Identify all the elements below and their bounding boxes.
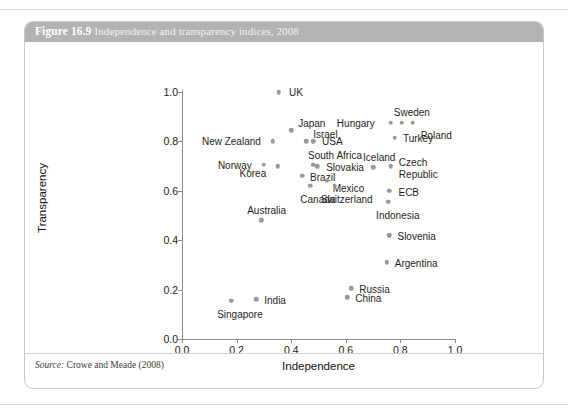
y-tick-mark [178, 141, 182, 142]
source-citation: Crowe and Meade (2008) [64, 360, 164, 370]
data-point-label: India [264, 296, 286, 306]
x-tick-label: 0.6 [338, 344, 353, 356]
y-tick-label: 1.0 [138, 86, 178, 98]
data-point [333, 184, 338, 189]
source-label: Source: [35, 360, 64, 370]
data-point-label: Argentina [395, 259, 438, 269]
data-point-label: Turkey [403, 134, 433, 144]
y-tick-mark [178, 191, 182, 192]
scatter-plot: 0.00.20.40.60.81.0 0.00.20.40.60.81.0 UK… [25, 42, 544, 353]
x-tick-mark [400, 339, 401, 343]
x-tick-mark [455, 339, 456, 343]
data-point [371, 165, 376, 170]
x-tick-mark [291, 339, 292, 343]
data-point [349, 286, 354, 291]
data-point [315, 164, 320, 169]
figure-panel: Figure 16.9 Independence and transparenc… [24, 21, 544, 389]
x-tick-label: 1.0 [448, 344, 463, 356]
x-tick-mark [182, 339, 183, 343]
data-point [289, 128, 294, 133]
data-point-label: Korea [240, 169, 267, 179]
data-point [410, 121, 415, 126]
data-point [387, 233, 392, 238]
data-point-label: ECB [398, 188, 419, 198]
data-point-label: Singapore [217, 310, 263, 320]
data-point-label: South Africa [308, 151, 362, 161]
figure-header-text: Figure 16.9 Independence and transparenc… [35, 25, 299, 37]
data-point-label: CzechRepublic [399, 157, 438, 180]
data-point [304, 139, 309, 144]
data-point-label: Iceland [363, 153, 395, 163]
data-point-label: UK [289, 88, 303, 98]
source-note: Source: Crowe and Meade (2008) [35, 360, 164, 370]
data-point [324, 179, 329, 184]
y-axis-line [182, 90, 183, 340]
data-point-label: Australia [247, 206, 286, 216]
y-axis-title: Transparency [36, 128, 48, 268]
y-tick-mark [178, 92, 182, 93]
data-point-label: New Zealand [202, 137, 261, 147]
data-point-label: Japan [298, 119, 325, 129]
y-tick-mark [178, 339, 182, 340]
data-point-label: Brazil [310, 173, 335, 183]
x-tick-mark [237, 339, 238, 343]
data-point [400, 121, 405, 126]
y-tick-mark [178, 290, 182, 291]
y-tick-label: 0.2 [138, 284, 178, 296]
data-point [389, 164, 394, 169]
data-point-label: Sweden [394, 108, 430, 118]
data-point [345, 295, 350, 300]
data-point [386, 200, 391, 205]
data-point [385, 260, 390, 265]
data-point [308, 184, 313, 189]
data-point-label: Mexico [333, 184, 365, 194]
data-point [259, 218, 264, 223]
figure-page: Figure 16.9 Independence and transparenc… [0, 0, 568, 413]
source-divider [25, 353, 543, 354]
data-point [389, 121, 394, 126]
y-tick-label: 0.4 [138, 234, 178, 246]
data-point [271, 139, 276, 144]
x-tick-mark [346, 339, 347, 343]
data-point [262, 163, 267, 168]
data-point-label: Hungary [337, 119, 375, 129]
data-point [275, 164, 280, 169]
data-point [229, 298, 234, 303]
page-rule-top [0, 9, 568, 10]
data-point [311, 139, 316, 144]
data-point-label: Slovenia [397, 232, 435, 242]
x-axis-line [182, 339, 455, 340]
y-tick-label: 0.6 [138, 185, 178, 197]
x-axis-title: Independence [182, 360, 455, 372]
data-point [254, 297, 259, 302]
x-tick-label: 0.8 [393, 344, 408, 356]
data-point-label: China [355, 294, 381, 304]
x-tick-label: 0.4 [284, 344, 299, 356]
data-point [300, 174, 305, 179]
data-point [277, 90, 282, 95]
page-rule-bottom [0, 404, 568, 405]
figure-caption: Independence and transparency indices, 2… [95, 25, 299, 37]
x-tick-label: 0.2 [229, 344, 244, 356]
x-tick-label: 0.0 [175, 344, 190, 356]
data-point-label: Indonesia [376, 211, 419, 221]
figure-number: Figure 16.9 [35, 25, 91, 37]
y-tick-label: 0.0 [138, 333, 178, 345]
data-point-label: USA [322, 137, 343, 147]
data-point [387, 189, 392, 194]
y-tick-mark [178, 240, 182, 241]
data-point [393, 135, 398, 140]
data-point-label: Switzerland [321, 195, 373, 205]
y-tick-label: 0.8 [138, 135, 178, 147]
